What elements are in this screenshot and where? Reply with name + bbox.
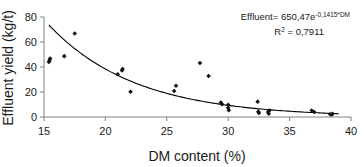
equation-annotation: Effluent= 650,47e-0,1415*DM <box>241 11 350 22</box>
scatter-chart: 020406080 152025303540 DM content (%) Ef… <box>0 0 364 167</box>
y-tick-label: 0 <box>31 111 37 123</box>
data-point-marker <box>255 99 260 104</box>
y-tick-label: 60 <box>25 36 37 48</box>
y-axis-title: Effluent yield (kg/t) <box>0 10 16 126</box>
x-tick-label: 30 <box>222 125 234 137</box>
x-tick-label: 35 <box>283 125 295 137</box>
data-point-marker <box>206 74 211 79</box>
y-tick-label: 40 <box>25 61 37 73</box>
x-axis-title: DM content (%) <box>148 148 245 164</box>
data-point-marker <box>62 54 67 59</box>
x-tick-label: 25 <box>161 125 173 137</box>
x-axis-ticks: 152025303540 <box>38 117 357 137</box>
data-point-marker <box>174 83 179 88</box>
x-tick-label: 40 <box>345 125 357 137</box>
data-point-marker <box>72 31 77 36</box>
r-squared-annotation: R2 = 0,7911 <box>274 26 324 37</box>
y-tick-label: 80 <box>25 11 37 23</box>
y-tick-label: 20 <box>25 86 37 98</box>
chart-canvas: 020406080 152025303540 DM content (%) Ef… <box>0 0 364 167</box>
exponential-fit-curve <box>49 25 339 114</box>
data-point-marker <box>128 89 133 94</box>
y-axis-ticks: 020406080 <box>25 11 44 123</box>
data-point-group <box>47 31 335 117</box>
x-tick-label: 20 <box>99 125 111 137</box>
x-tick-label: 15 <box>38 125 50 137</box>
data-point-marker <box>172 89 177 94</box>
data-point-marker <box>198 61 203 66</box>
